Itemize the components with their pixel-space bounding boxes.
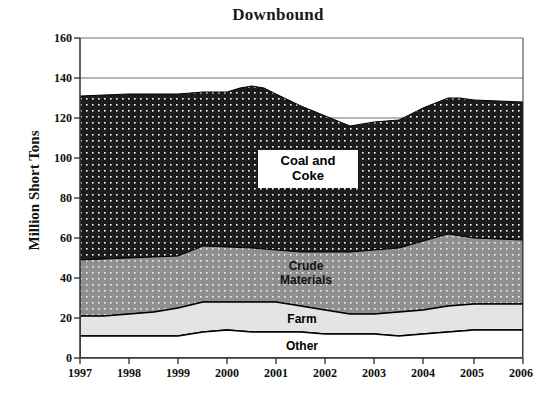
series-label-coal-and-coke: Coal and Coke <box>258 150 358 188</box>
series-label-farm: Farm <box>262 312 342 326</box>
series-label-crude-materials: Crude Materials <box>258 259 354 287</box>
x-axis-ticks <box>80 358 523 364</box>
chart-container: Downbound Million Short Tons 160 140 120… <box>0 0 556 404</box>
series-label-coal-line1: Coal and <box>266 153 350 168</box>
series-label-crude-line2: Materials <box>258 273 354 287</box>
series-label-crude-line1: Crude <box>258 259 354 273</box>
series-label-coal-line2: Coke <box>266 168 350 183</box>
y-axis-ticks <box>74 38 80 358</box>
series-label-other: Other <box>260 339 344 353</box>
